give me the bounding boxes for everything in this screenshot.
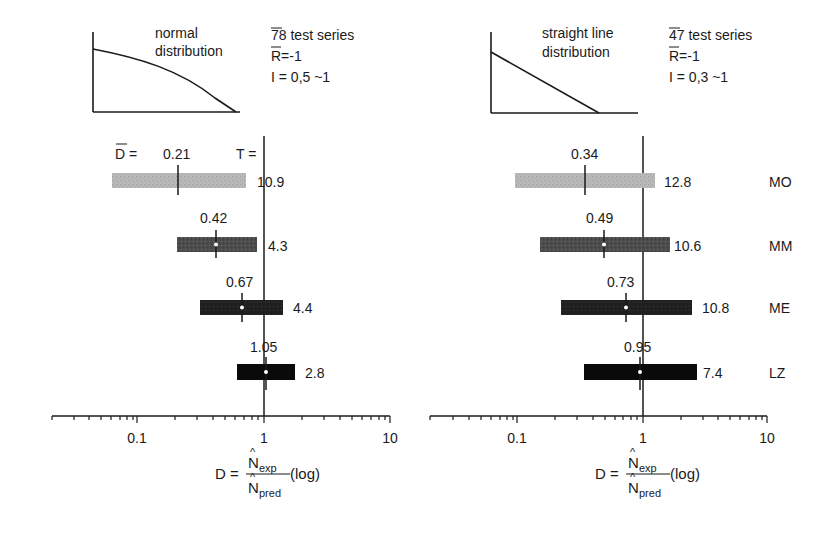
- x-axis-left: 0.1 1 10: [52, 416, 398, 446]
- row-label-MM: MM: [769, 238, 792, 254]
- t-value-LZ: 2.8: [305, 365, 325, 381]
- test-series-count: 78 test series: [271, 27, 354, 43]
- bar-LZ-right: 0.95 7.4: [584, 339, 723, 390]
- row-label-MO: MO: [769, 174, 792, 190]
- mean-value-MO: 0.21: [163, 146, 190, 162]
- chart-canvas: normal distribution 78 test series R=-1 …: [0, 0, 834, 535]
- svg-text:D =: D =: [215, 465, 239, 482]
- t-value-MO: 10.9: [257, 174, 284, 190]
- svg-text:(log): (log): [670, 465, 700, 482]
- tick-label-10: 10: [382, 430, 398, 446]
- tick-label-1: 1: [260, 430, 268, 446]
- t-value-MM: 4.3: [268, 238, 288, 254]
- d-bar-label: D =: [115, 146, 137, 162]
- x-axis-label-left: D = N exp ^ N pred ^ (log): [215, 446, 320, 499]
- bar-MM-right: 0.49 10.6: [540, 210, 701, 258]
- bar-MO-left: 0.21 10.9: [112, 146, 284, 195]
- svg-text:10.8: 10.8: [702, 300, 729, 316]
- svg-text:exp: exp: [639, 462, 657, 474]
- svg-text:0.34: 0.34: [571, 146, 598, 162]
- left-panel: normal distribution 78 test series R=-1 …: [52, 25, 398, 499]
- bar-ME-right: 0.73 10.8: [561, 274, 729, 322]
- row-label-ME: ME: [769, 300, 790, 316]
- bar-MM-left: 0.42 4.3: [177, 210, 288, 258]
- x-axis-label-right: D = N exp ^ N pred ^ (log): [595, 446, 700, 499]
- bar-LZ-left: 1.05 2.8: [237, 339, 325, 390]
- bar-ME-left: 0.67 4.4: [200, 274, 313, 322]
- svg-text:0.1: 0.1: [507, 430, 527, 446]
- inset-label-line2: distribution: [542, 44, 610, 60]
- t-value-ME: 4.4: [293, 300, 313, 316]
- svg-text:0.49: 0.49: [586, 210, 613, 226]
- mean-value-LZ: 1.05: [250, 339, 277, 355]
- inset-label-line2: distribution: [155, 43, 223, 59]
- row-label-LZ: LZ: [769, 365, 786, 381]
- svg-text:(log): (log): [290, 465, 320, 482]
- svg-text:pred: pred: [259, 487, 281, 499]
- t-label: T =: [236, 146, 256, 162]
- mean-value-MM: 0.42: [200, 210, 227, 226]
- svg-text:^: ^: [630, 471, 636, 483]
- svg-text:7.4: 7.4: [703, 365, 723, 381]
- tick-label-0.1: 0.1: [127, 430, 147, 446]
- svg-text:^: ^: [630, 446, 636, 458]
- bar-MO-right: 0.34 12.8: [515, 146, 691, 195]
- hat: ^: [250, 471, 256, 483]
- x-axis-right: 0.1 1 10: [430, 416, 775, 446]
- svg-text:exp: exp: [259, 462, 277, 474]
- test-series-count: 47 test series: [669, 27, 752, 43]
- inset-label-line1: straight line: [542, 25, 614, 41]
- svg-text:1: 1: [639, 430, 647, 446]
- inset-label-line1: normal: [155, 25, 198, 41]
- r-value: R=-1: [271, 48, 302, 64]
- hat: ^: [250, 446, 256, 458]
- right-panel: straight line distribution 47 test serie…: [430, 25, 792, 499]
- svg-text:10: 10: [759, 430, 775, 446]
- i-range: I = 0,5 ~1: [271, 69, 330, 85]
- r-value: R=-1: [669, 48, 700, 64]
- svg-text:0.73: 0.73: [607, 274, 634, 290]
- svg-text:0.95: 0.95: [624, 339, 651, 355]
- svg-text:12.8: 12.8: [664, 174, 691, 190]
- svg-text:pred: pred: [639, 487, 661, 499]
- mean-value-ME: 0.67: [226, 274, 253, 290]
- svg-text:D =: D =: [595, 465, 619, 482]
- svg-text:10.6: 10.6: [674, 238, 701, 254]
- i-range: I = 0,3 ~1: [669, 69, 728, 85]
